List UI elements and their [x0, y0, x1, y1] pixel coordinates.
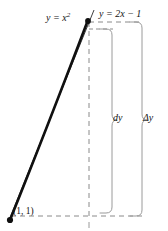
curve-exponent: 2 [67, 11, 71, 19]
parabola-curve [10, 20, 88, 220]
differentials-figure: y = x2 y = 2x − 1 (1, 1) dy Δy [0, 0, 168, 231]
curve-equation-label: y = x2 [46, 12, 70, 23]
upper-curve-point-marker [85, 18, 91, 24]
point-coordinate-label: (1, 1) [13, 207, 34, 217]
tangent-equation-label: y = 2x − 1 [99, 9, 141, 19]
point-1-1-marker [7, 217, 13, 223]
delta-y-label: Δy [143, 113, 153, 123]
dy-label: dy [113, 113, 122, 123]
